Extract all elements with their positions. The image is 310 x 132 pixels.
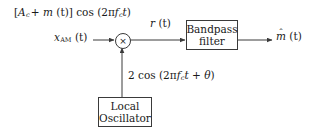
- carrier-message-arg: (t): [56, 6, 68, 18]
- intermediate-signal-label: r (t): [150, 18, 171, 29]
- oscillator-freq-symbol: f: [177, 69, 181, 81]
- carrier-cos-close: ): [127, 6, 131, 18]
- output-signal-hat-accent: ˆ: [278, 28, 283, 38]
- carrier-close-bracket: ]: [69, 6, 73, 18]
- output-signal-arg: (t): [289, 30, 301, 42]
- oscillator-plus-sign: +: [192, 69, 201, 81]
- output-signal-label: ˆm (t): [276, 31, 302, 42]
- input-signal-label: xAM (t): [54, 32, 87, 44]
- intermediate-signal-symbol: r: [150, 17, 155, 29]
- oscillator-cos-close: ): [211, 69, 215, 81]
- local-oscillator-label-line1: Local: [111, 100, 140, 112]
- carrier-cos-operator: cos: [76, 6, 94, 18]
- carrier-plus-sign: +: [31, 6, 40, 18]
- carrier-expression-label: [Ac+ m (t)] cos (2πfct): [14, 7, 131, 19]
- carrier-message-symbol: m: [43, 6, 53, 18]
- block-diagram: [Ac+ m (t)] cos (2πfct) xAM (t) r (t) ˆm…: [0, 0, 310, 132]
- oscillator-expression-label: 2 cos (2πfct + θ): [128, 70, 215, 82]
- local-oscillator-label-line2: Oscillator: [99, 112, 151, 124]
- output-signal-symbol-group: ˆm: [276, 31, 286, 42]
- carrier-amplitude-symbol: A: [18, 6, 26, 18]
- bandpass-filter-block[interactable]: Bandpass filter: [186, 20, 238, 50]
- intermediate-signal-arg: (t): [158, 17, 170, 29]
- oscillator-cos-open: (2π: [159, 69, 177, 81]
- input-signal-arg: (t): [75, 31, 87, 43]
- bandpass-filter-label-line1: Bandpass: [186, 23, 237, 35]
- multiplier-node[interactable]: ×: [115, 33, 131, 49]
- oscillator-cos-operator: cos: [138, 69, 156, 81]
- carrier-amplitude-subscript: c: [26, 11, 30, 19]
- multiply-icon: ×: [119, 37, 127, 46]
- oscillator-gain: 2: [128, 69, 135, 81]
- input-signal-subscript: AM: [60, 36, 71, 44]
- oscillator-time-symbol: t: [184, 69, 188, 81]
- bandpass-filter-label-line2: filter: [199, 35, 225, 47]
- local-oscillator-block[interactable]: Local Oscillator: [98, 97, 152, 127]
- carrier-cos-open: (2π: [97, 6, 115, 18]
